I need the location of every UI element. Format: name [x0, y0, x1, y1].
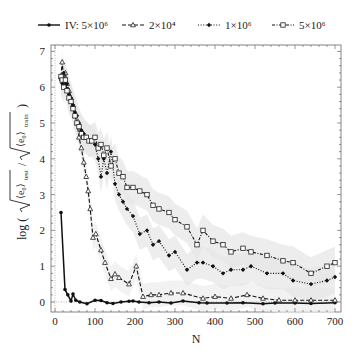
legend-item: 5×10⁶ [272, 19, 326, 31]
legend-item: IV: 5×10⁶ [38, 19, 108, 31]
x-axis-label: N [192, 332, 201, 346]
legend-label: 5×10⁶ [299, 19, 326, 31]
legend-item: 1×10⁶ [198, 19, 252, 31]
x-tick-label: 0 [52, 315, 58, 327]
legend-label: IV: 5×10⁶ [65, 19, 108, 31]
y-label-divider: / [15, 162, 29, 166]
y-tick-label: 2 [40, 224, 46, 236]
legend-item: 2×10⁴ [122, 19, 176, 31]
y-tick-label: 5 [40, 117, 46, 129]
x-tick-labels: 0100200300400500600700 [52, 315, 344, 327]
legend-label: 1×10⁶ [225, 19, 252, 31]
y-label-test-subscript: test [22, 170, 30, 180]
y-tick-label: 6 [40, 81, 46, 93]
y-axis-label-suffix: ) [15, 104, 29, 108]
y-label-numerator: ⟨e₀⟩ [15, 183, 26, 199]
y-axis-label: log ( ⟨e₀⟩ test / ⟨e₀⟩ train ) [10, 104, 30, 240]
x-tick-label: 300 [167, 315, 184, 327]
y-tick-label: 1 [40, 260, 46, 272]
y-tick-label: 3 [40, 189, 46, 201]
x-tick-label: 400 [207, 315, 224, 327]
x-tick-label: 700 [327, 315, 344, 327]
y-label-denominator: ⟨e₀⟩ [15, 131, 26, 147]
y-tick-label: 7 [40, 45, 46, 57]
y-tick-labels: 01234567 [40, 45, 46, 308]
legend: IV: 5×10⁶2×10⁴1×10⁶5×10⁶ [38, 19, 326, 31]
y-axis-label-prefix: log ( [15, 218, 29, 240]
x-tick-label: 500 [247, 315, 264, 327]
y-label-train-subscript: train [22, 114, 30, 127]
y-tick-label: 0 [40, 296, 46, 308]
line-chart: IV: 5×10⁶2×10⁴1×10⁶5×10⁶ 010020030040050… [0, 0, 356, 363]
x-tick-label: 600 [287, 315, 304, 327]
x-tick-label: 100 [87, 315, 104, 327]
legend-label: 2×10⁴ [149, 19, 176, 31]
y-tick-label: 4 [40, 153, 46, 165]
x-tick-label: 200 [127, 315, 144, 327]
